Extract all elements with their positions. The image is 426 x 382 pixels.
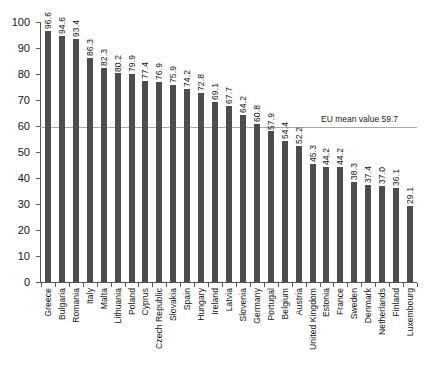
plot-area: 96.694.693.486.382.380.279.977.476.975.9… [41, 22, 417, 282]
category-slot: Lithuania [111, 288, 125, 382]
category-label: Latvia [224, 288, 233, 311]
category-slot: Finland [389, 288, 403, 382]
bar-value-label: 67.7 [224, 87, 233, 104]
bar-value-label: 54.4 [280, 122, 289, 139]
bar [129, 74, 135, 282]
bar-value-label: 29.1 [406, 187, 415, 204]
category-label: Ireland [211, 288, 220, 315]
category-slot: Denmark [361, 288, 375, 382]
category-slot: Portugal [264, 288, 278, 382]
x-tick-mark [152, 283, 153, 287]
bar-value-label: 72.8 [197, 74, 206, 91]
bar-value-label: 37.0 [378, 167, 387, 184]
category-slot: Bulgaria [55, 288, 69, 382]
bar-slot: 38.3 [347, 22, 361, 282]
x-tick-mark [55, 283, 56, 287]
y-tick-label: 60 [18, 121, 30, 132]
category-slot: Poland [125, 288, 139, 382]
bar-slot: 93.4 [69, 22, 83, 282]
bar [351, 182, 357, 282]
bar [407, 206, 413, 282]
bar-value-label: 80.2 [113, 55, 122, 72]
bar [170, 85, 176, 282]
bar-chart: 0102030405060708090100 EU mean value 59.… [0, 0, 426, 382]
x-tick-mark [180, 283, 181, 287]
bar [323, 167, 329, 282]
bar [337, 167, 343, 282]
category-label: Italy [85, 288, 94, 304]
category-label: Sweden [350, 288, 359, 319]
x-tick-mark [278, 283, 279, 287]
category-slot: Ireland [208, 288, 222, 382]
bar-slot: 86.3 [83, 22, 97, 282]
bar [296, 146, 302, 282]
category-slot: Slovenia [236, 288, 250, 382]
x-tick-mark [320, 283, 321, 287]
category-label: Finland [392, 288, 401, 317]
y-tick-label: 100 [12, 17, 30, 28]
bar-slot: 72.8 [194, 22, 208, 282]
bar [379, 186, 385, 282]
category-slot: Estonia [320, 288, 334, 382]
category-label: Austria [294, 288, 303, 315]
category-slot: Latvia [222, 288, 236, 382]
bar [365, 185, 371, 282]
category-slot: Luxembourg [403, 288, 417, 382]
bar-slot: 37.4 [361, 22, 375, 282]
bar-value-label: 52.2 [294, 127, 303, 144]
bar [212, 102, 218, 282]
y-tick-label: 50 [18, 147, 30, 158]
bar-value-label: 69.1 [211, 83, 220, 100]
x-tick-mark [375, 283, 376, 287]
x-tick-mark [166, 283, 167, 287]
bar [268, 131, 274, 282]
category-slot: Cyprus [138, 288, 152, 382]
category-slot: Belgium [278, 288, 292, 382]
bar-slot: 44.2 [333, 22, 347, 282]
bar-value-label: 76.9 [155, 63, 164, 80]
y-tick-label: 0 [24, 277, 30, 288]
bar-slot: 44.2 [320, 22, 334, 282]
bar-slot: 67.7 [222, 22, 236, 282]
category-label: Denmark [364, 288, 373, 323]
bar-value-label: 86.3 [85, 39, 94, 56]
bar-slot: 82.3 [97, 22, 111, 282]
x-tick-mark [111, 283, 112, 287]
bar [59, 36, 65, 282]
bar-slot: 96.6 [41, 22, 55, 282]
bar-slot: 74.2 [180, 22, 194, 282]
bar [73, 39, 79, 282]
category-slot: Austria [292, 288, 306, 382]
y-tick-label: 70 [18, 95, 30, 106]
category-slot: Spain [180, 288, 194, 382]
x-tick-mark [389, 283, 390, 287]
bar-value-label: 94.6 [57, 17, 66, 34]
bar-value-label: 36.1 [392, 169, 401, 186]
y-tick-label: 30 [18, 199, 30, 210]
bar-slot: 36.1 [389, 22, 403, 282]
category-label: Belgium [280, 288, 289, 319]
x-tick-mark [417, 283, 418, 287]
x-tick-mark [125, 283, 126, 287]
bar-slot: 76.9 [152, 22, 166, 282]
bar-slot: 77.4 [138, 22, 152, 282]
x-tick-mark [41, 283, 42, 287]
category-label: Slovakia [169, 288, 178, 321]
y-tick-label: 80 [18, 69, 30, 80]
category-slot: Italy [83, 288, 97, 382]
bar-slot: 54.4 [278, 22, 292, 282]
bar-value-label: 79.9 [127, 55, 136, 72]
bar-value-label: 60.8 [252, 105, 261, 122]
x-tick-mark [250, 283, 251, 287]
category-slot: Malta [97, 288, 111, 382]
x-tick-mark [333, 283, 334, 287]
bar-value-label: 74.2 [183, 70, 192, 87]
category-slot [417, 288, 418, 382]
bar-slot: 29.1 [403, 22, 417, 282]
bar [254, 124, 260, 282]
bar-slot: 94.6 [55, 22, 69, 282]
category-slot: Hungary [194, 288, 208, 382]
x-tick-mark [264, 283, 265, 287]
bar-slot: 79.9 [125, 22, 139, 282]
x-tick-mark [292, 283, 293, 287]
